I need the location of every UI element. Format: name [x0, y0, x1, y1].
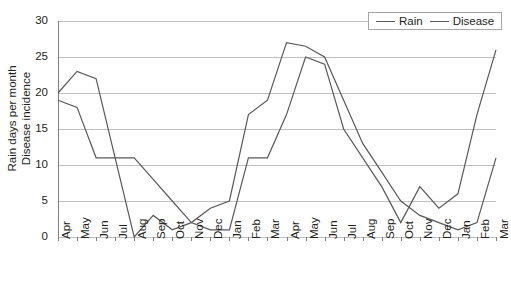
y-tick-label-10: 10	[22, 159, 48, 171]
y-tick-label-25: 25	[22, 51, 48, 63]
x-tick-label-7: Nov	[183, 239, 199, 283]
x-tick-label-18: Oct	[393, 239, 409, 283]
x-tick-label-20: Dec	[431, 239, 447, 283]
legend-label-rain: Rain	[399, 15, 423, 27]
x-tick-label-17: Sep	[374, 239, 390, 283]
series-lines	[58, 43, 496, 237]
gridlines	[58, 22, 496, 238]
legend-item-rain: Rain	[376, 15, 423, 27]
x-tick-label-19: Nov	[412, 239, 428, 283]
x-tick-label-15: Jul	[336, 239, 352, 283]
x-tick-label-4: Aug	[126, 239, 142, 283]
x-tick-label-9: Jan	[221, 239, 237, 283]
legend-item-disease: Disease	[430, 15, 495, 27]
x-tick-label-2: Jun	[88, 239, 104, 283]
x-tick-label-22: Feb	[469, 239, 485, 283]
x-tick-label-23: Mar	[488, 239, 504, 283]
x-tick-label-1: May	[69, 239, 85, 283]
x-tick-label-11: Mar	[259, 239, 275, 283]
y-tick-label-5: 5	[22, 195, 48, 207]
y-tick-label-30: 30	[22, 15, 48, 27]
x-tick-label-21: Jan	[450, 239, 466, 283]
x-tick-label-16: Aug	[355, 239, 371, 283]
x-tick-label-0: Apr	[50, 239, 66, 283]
x-tick-label-10: Feb	[240, 239, 256, 283]
legend-label-disease: Disease	[453, 15, 495, 27]
x-tick-label-14: Jun	[317, 239, 333, 283]
y-tick-label-20: 20	[22, 87, 48, 99]
legend-swatch-rain	[376, 21, 395, 22]
x-tick-label-5: Sep	[145, 239, 161, 283]
y-tick-label-15: 15	[22, 123, 48, 135]
x-tick-label-6: Oct	[164, 239, 180, 283]
series-line-disease	[58, 50, 496, 230]
x-tick-label-3: Jul	[107, 239, 123, 283]
x-tick-label-12: Apr	[279, 239, 295, 283]
x-tick-label-8: Dec	[202, 239, 218, 283]
x-tick-label-13: May	[298, 239, 314, 283]
legend-swatch-disease	[430, 21, 449, 22]
series-line-rain	[58, 43, 496, 237]
y-tick-label-0: 0	[22, 231, 48, 243]
chart-legend: Rain Disease	[368, 12, 502, 30]
